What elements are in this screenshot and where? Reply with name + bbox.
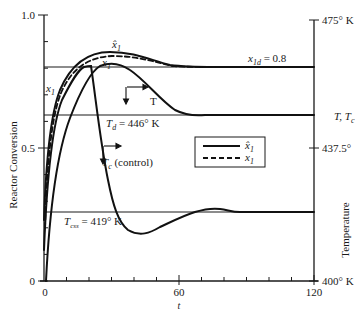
xhat1-peak-label: x̂1: [111, 38, 121, 53]
tc-label: Tc (control): [102, 156, 153, 171]
x-tick-120: 120: [306, 286, 323, 298]
right-tick-475: 475° K: [322, 14, 354, 26]
left-tick-labels: 1.0 0.5 0: [21, 9, 35, 287]
x-tick-60: 60: [174, 286, 186, 298]
left-ticks: [38, 15, 48, 281]
legend: x̂1 x1: [195, 137, 265, 167]
x1-peak-label: x1: [101, 56, 111, 71]
right-axis-symbol: T, Tc: [334, 110, 355, 125]
curves: [44, 52, 314, 281]
y-tick-05: 0.5: [21, 142, 35, 154]
T-curve-label: T: [150, 95, 157, 107]
reference-lines: [44, 67, 314, 212]
y-right-axis-title: Temperature: [339, 202, 351, 258]
y-axis-title: Reactor Conversion: [7, 121, 19, 209]
x1d-label: x1d = 0.8: [247, 52, 287, 67]
x-ticks: [67, 275, 315, 285]
y-tick-0: 0: [30, 275, 36, 287]
series-xhat1: [44, 52, 314, 220]
right-tick-400: 400° K: [322, 275, 354, 287]
right-tick-4375: 437.5°: [322, 142, 351, 154]
series-T: [46, 64, 314, 281]
reactor-chart: 1.0 0.5 0 0 60 120 t 475° K 437.5° 400° …: [0, 0, 364, 317]
tcss-label: Tcss = 419° K: [64, 215, 122, 230]
x-tick-0: 0: [42, 286, 48, 298]
y-tick-1: 1.0: [21, 9, 35, 21]
td-label: Td = 446° K: [106, 117, 159, 132]
x-tick-labels: 0 60 120 t: [42, 286, 323, 311]
x-axis-label: t: [178, 300, 181, 311]
